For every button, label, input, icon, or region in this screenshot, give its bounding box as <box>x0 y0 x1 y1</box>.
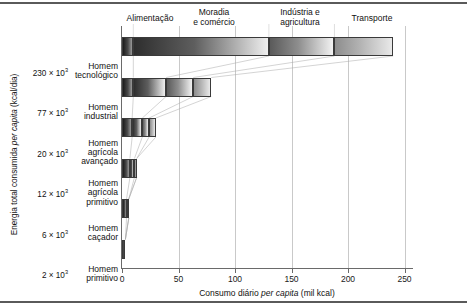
connector-line <box>137 137 149 159</box>
bar-segment[interactable] <box>122 159 130 178</box>
x-axis-tick <box>122 269 123 273</box>
connector-line <box>211 56 393 78</box>
x-axis-line <box>121 268 413 269</box>
table-row[interactable] <box>0 240 467 259</box>
connector-line <box>137 137 156 159</box>
x-axis-tick <box>235 269 236 273</box>
connector-line <box>125 218 126 240</box>
top-rule <box>0 2 467 4</box>
x-axis-tick <box>348 269 349 273</box>
category-label: Homemprimitivo <box>86 265 118 284</box>
bar-segment[interactable] <box>134 159 136 178</box>
connector-line <box>132 97 133 119</box>
x-axis-tick <box>292 269 293 273</box>
bottom-rule <box>0 301 467 303</box>
x-axis-tick-label: 250 <box>397 274 411 284</box>
y-value-label: 2 × 103 <box>42 269 68 280</box>
table-row[interactable] <box>0 159 467 178</box>
connector-line <box>134 137 142 159</box>
connector-line <box>166 56 269 78</box>
bar-segment[interactable] <box>133 78 166 97</box>
figure-frame: Energia total consumida per capita (kcal… <box>0 0 467 308</box>
table-row[interactable] <box>0 199 467 218</box>
x-axis-tick-label: 150 <box>284 274 298 284</box>
bar-segment[interactable] <box>334 37 393 56</box>
x-axis-tick-label: 50 <box>174 274 183 284</box>
connector-line <box>129 178 137 200</box>
bar-segment[interactable] <box>122 118 132 137</box>
gridline <box>405 26 406 268</box>
x-axis-tick-label: 200 <box>341 274 355 284</box>
connector-line <box>125 218 128 240</box>
x-axis-title-suffix: (mil kcal) <box>298 288 334 298</box>
table-row[interactable] <box>0 78 467 97</box>
connector-line <box>127 178 130 200</box>
bar-segment[interactable] <box>132 118 142 137</box>
connector-line <box>156 97 211 119</box>
x-axis-tick <box>405 269 406 273</box>
gridline <box>179 26 180 268</box>
connector-line <box>125 218 128 240</box>
bar-segment[interactable] <box>269 37 335 56</box>
category-labels: HomemtecnológicoHomemindustrialHomemagrí… <box>52 26 118 269</box>
x-axis-tick <box>179 269 180 273</box>
connector-line <box>130 137 132 159</box>
series-group-header: Moradiae comércio <box>164 8 264 27</box>
y-axis-line <box>121 26 122 269</box>
series-group-header: Transporte <box>322 14 422 24</box>
table-row[interactable] <box>0 118 467 137</box>
table-row[interactable] <box>0 37 467 56</box>
gridline <box>235 26 236 268</box>
x-axis-title-prefix: Consumo diário <box>199 288 261 298</box>
gridline <box>348 26 349 268</box>
connector-line <box>125 218 128 240</box>
x-axis-tick-label: 0 <box>120 274 125 284</box>
gridline <box>292 26 293 268</box>
connector-line <box>142 97 166 119</box>
x-axis-title: Consumo diário per capita (mil kcal) <box>122 288 412 298</box>
bar-segment[interactable] <box>122 37 133 56</box>
bar-segment[interactable] <box>193 78 211 97</box>
connector-line <box>129 178 135 200</box>
bar-segment[interactable] <box>122 240 125 259</box>
bar-segment[interactable] <box>149 118 156 137</box>
x-axis-title-italic: per capita <box>261 288 298 298</box>
bar-segment[interactable] <box>127 199 129 218</box>
bar-segment[interactable] <box>122 78 133 97</box>
x-axis-tick-label: 100 <box>228 274 242 284</box>
connector-line <box>149 97 193 119</box>
bar-segment[interactable] <box>133 37 269 56</box>
bar-segment[interactable] <box>142 118 149 137</box>
connector-line <box>129 178 137 200</box>
connector-line <box>193 56 334 78</box>
bar-segment[interactable] <box>166 78 193 97</box>
